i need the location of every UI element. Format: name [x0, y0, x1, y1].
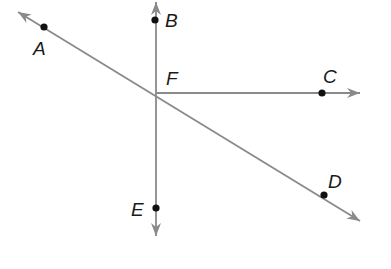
line-AD — [18, 12, 360, 221]
point-c — [318, 89, 325, 96]
point-e — [152, 204, 159, 211]
line-AD-arrow-end-icon — [346, 210, 360, 221]
lines-layer — [18, 2, 360, 236]
label-a: A — [32, 38, 46, 59]
label-d: D — [328, 171, 342, 192]
point-a — [40, 23, 47, 30]
label-e: E — [131, 199, 144, 220]
geometry-diagram: ABCDEF — [0, 0, 391, 269]
point-d — [320, 191, 327, 198]
point-b — [151, 16, 158, 23]
line-AD-arrow-start-icon — [18, 12, 32, 23]
label-b: B — [165, 10, 178, 31]
label-c: C — [323, 66, 337, 87]
label-f: F — [166, 68, 179, 89]
